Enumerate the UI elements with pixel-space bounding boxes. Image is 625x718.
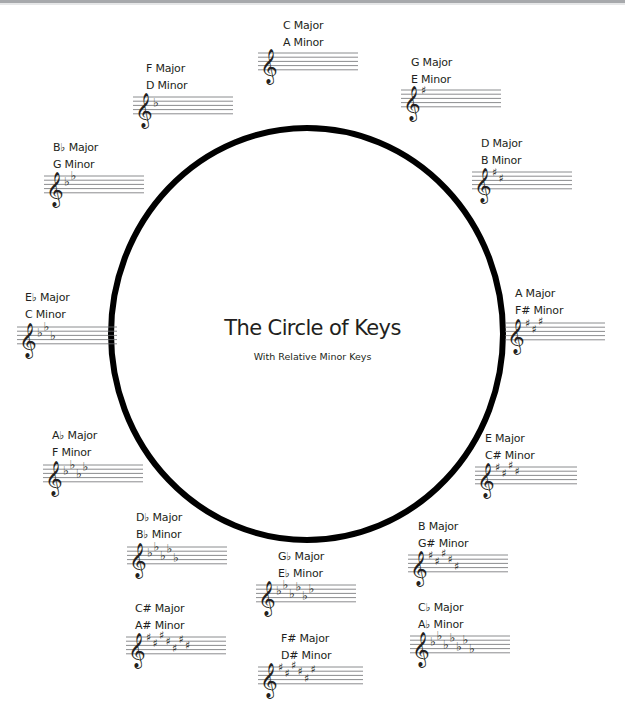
major-key-label: B♭ Major [53, 139, 98, 156]
minor-key-label: C# Minor [485, 447, 535, 464]
key-label-3: A MajorF# Minor [515, 285, 563, 319]
treble-clef-icon: 𝄞 [403, 85, 421, 122]
key-label-1: G MajorE Minor [411, 54, 452, 88]
sharp-icon: ♯ [435, 555, 440, 568]
major-key-label: C♭ Major [418, 599, 463, 616]
sharp-icon: ♯ [185, 639, 190, 652]
minor-key-label: A♭ Minor [418, 616, 463, 633]
minor-key-label: A# Minor [135, 617, 184, 634]
key-staff-6: 𝄞♭♭♭♭♭♭♭ [410, 629, 510, 668]
key-label-11: A♭ MajorF Minor [52, 427, 97, 461]
flat-icon: ♭ [63, 464, 69, 478]
major-key-label: F# Major [281, 630, 331, 647]
major-key-label: B Major [418, 518, 468, 535]
key-staff-5: 𝄞♯♯♯♯♯ [408, 547, 508, 587]
key-staff-4: 𝄞♯♯♯♯ [475, 459, 577, 499]
key-label-14: F MajorD Minor [146, 60, 187, 94]
treble-clef-icon: 𝄞 [135, 92, 153, 129]
flat-icon: ♭ [430, 635, 436, 649]
sharp-icon: ♯ [311, 663, 316, 676]
treble-clef-icon: 𝄞 [412, 631, 430, 668]
flat-icon: ♭ [76, 467, 82, 481]
minor-key-label: E Minor [411, 71, 452, 88]
minor-key-label: B Minor [481, 152, 522, 169]
key-staff-7: 𝄞♯♯♯♯♯♯ [258, 659, 363, 699]
flat-icon: ♭ [160, 549, 166, 563]
page-title: The Circle of Keys [0, 316, 625, 340]
treble-clef-icon: 𝄞 [129, 542, 147, 579]
flat-icon: ♭ [450, 631, 456, 645]
page-subtitle: With Relative Minor Keys [0, 351, 625, 362]
key-label-0: C MajorA Minor [283, 17, 323, 51]
key-label-9: C# MajorA# Minor [135, 600, 184, 634]
flat-icon: ♭ [296, 580, 302, 594]
flat-icon: ♭ [147, 546, 153, 560]
sharp-icon: ♯ [448, 553, 453, 566]
flat-icon: ♭ [83, 460, 89, 474]
treble-clef-icon: 𝄞 [410, 550, 428, 587]
key-label-6: C♭ MajorA♭ Minor [418, 599, 463, 633]
sharp-icon: ♯ [172, 642, 177, 655]
major-key-label: F Major [146, 60, 187, 77]
sharp-icon: ♯ [499, 172, 504, 185]
minor-key-label: D# Minor [281, 647, 331, 664]
key-label-10: D♭ MajorB♭ Minor [136, 509, 182, 543]
treble-clef-icon: 𝄞 [45, 460, 63, 497]
major-key-label: E Major [485, 430, 535, 447]
minor-key-label: E♭ Minor [278, 565, 324, 582]
treble-clef-icon: 𝄞 [258, 580, 276, 617]
key-staff-1: 𝄞♯ [401, 84, 501, 122]
sharp-icon: ♯ [153, 637, 158, 650]
major-key-label: D Major [481, 135, 522, 152]
sharp-icon: ♯ [298, 665, 303, 678]
flat-icon: ♭ [167, 542, 173, 556]
key-staff-8: 𝄞♭♭♭♭♭♭ [256, 578, 356, 617]
sharp-icon: ♯ [166, 635, 171, 648]
treble-clef-icon: 𝄞 [128, 632, 146, 669]
flat-icon: ♭ [469, 642, 475, 656]
key-label-2: D MajorB Minor [481, 135, 522, 169]
major-key-label: C# Major [135, 600, 184, 617]
key-staff-13: 𝄞♭♭ [44, 169, 144, 208]
minor-key-label: G Minor [53, 156, 98, 173]
flat-icon: ♭ [276, 584, 282, 598]
sharp-icon: ♯ [304, 672, 309, 685]
minor-key-label: F Minor [52, 444, 97, 461]
key-label-8: G♭ MajorE♭ Minor [278, 548, 324, 582]
minor-key-label: B♭ Minor [136, 526, 182, 543]
treble-clef-icon: 𝄞 [477, 462, 495, 499]
flat-icon: ♭ [153, 96, 159, 110]
key-staff-11: 𝄞♭♭♭♭ [43, 458, 143, 497]
flat-icon: ♭ [302, 589, 308, 603]
treble-clef-icon: 𝄞 [474, 167, 492, 204]
major-key-label: A Major [515, 285, 563, 302]
sharp-icon: ♯ [502, 467, 507, 480]
key-label-13: B♭ MajorG Minor [53, 139, 98, 173]
key-label-5: B MajorG# Minor [418, 518, 468, 552]
treble-clef-icon: 𝄞 [260, 48, 278, 85]
major-key-label: C Major [283, 17, 323, 34]
flat-icon: ♭ [456, 640, 462, 654]
key-staff-2: 𝄞♯♯ [472, 166, 572, 204]
sharp-icon: ♯ [285, 667, 290, 680]
key-label-7: F# MajorD# Minor [281, 630, 331, 664]
major-key-label: G Major [411, 54, 452, 71]
major-key-label: E♭ Major [25, 289, 70, 306]
flat-icon: ♭ [173, 551, 179, 565]
flat-icon: ♭ [443, 638, 449, 652]
major-key-label: D♭ Major [136, 509, 182, 526]
major-key-label: A♭ Major [52, 427, 97, 444]
treble-clef-icon: 𝄞 [46, 171, 64, 208]
major-key-label: G♭ Major [278, 548, 324, 565]
minor-key-label: D Minor [146, 77, 187, 94]
key-staff-14: 𝄞♭ [133, 92, 233, 129]
flat-icon: ♭ [289, 587, 295, 601]
sharp-icon: ♯ [454, 560, 459, 573]
sharp-icon: ♯ [179, 633, 184, 646]
key-staff-9: 𝄞♯♯♯♯♯♯♯ [126, 629, 226, 669]
flat-icon: ♭ [463, 633, 469, 647]
treble-clef-icon: 𝄞 [260, 662, 278, 699]
key-label-4: E MajorC# Minor [485, 430, 535, 464]
minor-key-label: G# Minor [418, 535, 468, 552]
key-staff-0: 𝄞 [258, 48, 358, 85]
